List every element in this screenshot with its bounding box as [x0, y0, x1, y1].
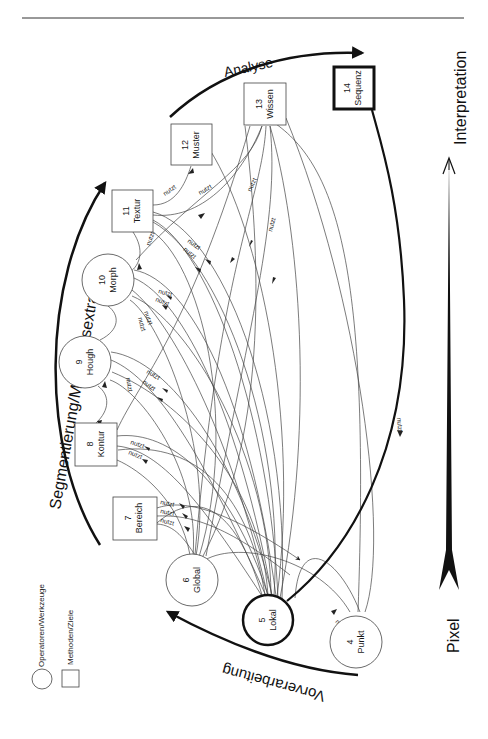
svg-text:8: 8	[85, 441, 95, 446]
axis-label-pixel: Pixel	[445, 618, 462, 653]
node-morph: 10 Morph	[82, 254, 134, 306]
axis-label-interpretation: Interpretation	[452, 51, 469, 145]
svg-text:4: 4	[345, 639, 355, 644]
legend-square-icon	[62, 670, 79, 687]
svg-text:Muster: Muster	[191, 131, 201, 159]
node-kontur: 8 Kontur	[75, 423, 117, 466]
svg-text:Global: Global	[192, 567, 202, 593]
svg-text:6: 6	[181, 577, 191, 582]
svg-text:13: 13	[254, 99, 264, 109]
svg-text:nutzt: nutzt	[162, 183, 178, 197]
legend-circle-icon	[32, 669, 52, 689]
svg-text:7: 7	[123, 515, 133, 520]
svg-text:5: 5	[257, 617, 267, 622]
legend-label-methoden: Methoden/Ziele	[66, 609, 75, 665]
stage-label-analyse: Analyse	[222, 54, 274, 80]
node-bereich: 7 Bereich	[113, 497, 157, 540]
node-hough: 9 Hough	[59, 336, 111, 388]
legend-label-operatoren: Operatoren/Werkzeuge	[37, 583, 46, 667]
node-global: 6 Global	[166, 554, 218, 606]
svg-text:nutzt: nutzt	[144, 231, 155, 247]
svg-text:Wissen: Wissen	[265, 89, 275, 119]
svg-text:12: 12	[180, 140, 190, 150]
svg-text:nutzt: nutzt	[160, 516, 176, 526]
svg-text:14: 14	[342, 83, 352, 93]
svg-text:Hough: Hough	[85, 349, 95, 376]
svg-text:Lokal: Lokal	[268, 609, 278, 631]
node-muster: 12 Muster	[171, 124, 212, 165]
nodes: 4 Punkt 5 Lokal 6 Global 7 Bereich 8 Kon…	[59, 67, 382, 668]
svg-text:11: 11	[121, 206, 131, 215]
svg-text:nutzt: nutzt	[130, 438, 146, 449]
svg-text:Kontur: Kontur	[96, 431, 106, 458]
svg-text:nutzt: nutzt	[128, 448, 144, 460]
pixel-interpretation-axis	[439, 158, 459, 590]
svg-text:Bereich: Bereich	[134, 503, 144, 534]
node-punkt: 4 Punkt	[330, 616, 382, 668]
svg-text:Textur: Textur	[132, 199, 142, 224]
svg-text:Punkt: Punkt	[356, 630, 366, 654]
svg-text:Morph: Morph	[108, 267, 118, 293]
svg-text:9: 9	[74, 359, 84, 364]
svg-text:nutzt: nutzt	[141, 378, 157, 392]
svg-text:Sequenz: Sequenz	[353, 70, 363, 106]
svg-text:nutzt: nutzt	[197, 183, 213, 196]
node-lokal: 5 Lokal	[243, 595, 293, 645]
svg-text:nutzt: nutzt	[266, 217, 276, 233]
svg-text:10: 10	[97, 275, 107, 285]
legend: Operatoren/Werkzeuge Methoden/Ziele	[32, 583, 79, 689]
node-sequenz: 14 Sequenz	[334, 67, 374, 109]
node-textur: 11 Textur	[112, 190, 153, 232]
diagram-canvas: nutzt nutzt nutzt nutzt nutzt nutzt nutz…	[0, 0, 488, 739]
node-wissen: 13 Wissen	[244, 83, 286, 125]
